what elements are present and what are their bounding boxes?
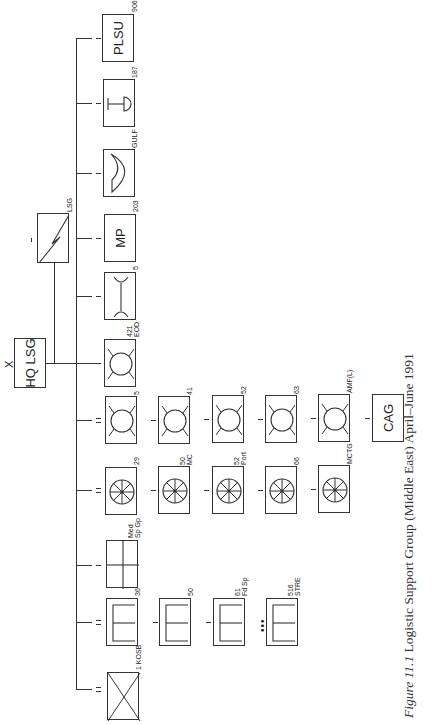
unit-50-box[interactable] — [159, 598, 191, 646]
unit-61-box[interactable] — [213, 598, 245, 646]
tick-36-2 — [96, 624, 101, 625]
tick-41 — [151, 420, 156, 421]
unit-52port-number: 52 — [233, 457, 240, 465]
unit-66-box[interactable] — [265, 466, 297, 514]
unit-50mc-box[interactable] — [158, 466, 190, 514]
branch-medsp — [76, 565, 92, 566]
branch-29 — [76, 490, 92, 491]
lsg-box[interactable] — [37, 213, 69, 263]
unit-52port-sub: Port — [240, 452, 247, 465]
unit-29-number: 29 — [133, 457, 140, 465]
mp-number: 203 — [132, 200, 139, 212]
tick-187 — [96, 103, 101, 104]
tick-mp — [96, 238, 101, 239]
med-sp-gp-sub: Sp Gp — [134, 518, 141, 538]
tick-amf — [311, 418, 316, 419]
plsu-label: PLSU — [111, 21, 126, 55]
branch-187 — [76, 103, 92, 104]
unit-5a-number: 5 — [132, 266, 139, 270]
supply-icon — [160, 599, 192, 647]
gulf-box[interactable] — [103, 149, 135, 197]
figure-label: Figure 11.1 — [401, 656, 416, 718]
eod-box[interactable] — [104, 339, 136, 387]
medical-cross-icon — [107, 541, 139, 589]
tick-kosb-1 — [96, 687, 101, 688]
branch-36 — [76, 622, 92, 623]
wheel-icon — [266, 467, 298, 515]
mctg-box[interactable] — [318, 465, 350, 513]
tick-medsp — [96, 565, 101, 566]
branch-5b — [76, 420, 92, 421]
lsg-label: LSG — [66, 198, 73, 212]
unit-187-number: 187 — [131, 66, 138, 78]
unit-52a-box[interactable] — [212, 395, 244, 443]
plsu-number: 906 — [131, 0, 138, 12]
tick-52port — [204, 490, 209, 491]
branch-mp — [76, 238, 92, 239]
tick-gulf — [96, 173, 101, 174]
wheel-icon — [213, 467, 245, 515]
tick-63 — [258, 419, 263, 420]
cag-box[interactable]: CAG — [372, 394, 404, 442]
tick-50mc — [151, 490, 156, 491]
tick-5b-1 — [96, 418, 101, 419]
hq-to-lsg-line — [54, 263, 55, 363]
unit-516-number: 516 — [287, 584, 294, 596]
branch-kosb — [76, 689, 92, 690]
unit-50-number: 50 — [187, 588, 194, 596]
kosb-box[interactable] — [107, 672, 139, 720]
amf-box[interactable] — [318, 394, 350, 442]
unit-5a-box[interactable] — [104, 272, 136, 320]
unit-50mc-sub: MC — [186, 454, 193, 465]
unit-41-box[interactable] — [158, 396, 190, 444]
unit-29-box[interactable] — [105, 467, 137, 515]
amf-number: AMF(L) — [346, 370, 353, 393]
tick-66 — [258, 490, 263, 491]
tick-52a — [204, 419, 209, 420]
figure-caption-text: Logistic Support Group (Middle East) Apr… — [401, 353, 416, 652]
unit-50mc-number: 50 — [179, 457, 186, 465]
ordnance-icon — [106, 397, 138, 445]
unit-41-number: 41 — [186, 387, 193, 395]
unit-52port-box[interactable] — [212, 466, 244, 514]
tick-29-2 — [96, 492, 101, 493]
unit-63-box[interactable] — [265, 395, 297, 443]
eod-number: 421 — [126, 325, 133, 337]
hq-lsg-box[interactable]: HQ LSG — [14, 338, 46, 388]
mp-box[interactable]: MP — [104, 214, 136, 262]
med-sp-gp-box[interactable] — [106, 540, 138, 588]
tbar-icon — [104, 80, 136, 128]
unit-5b-number: 5 — [133, 391, 140, 395]
hq-to-spine-line — [45, 363, 97, 364]
unit-516-box[interactable] — [266, 598, 298, 646]
ordnance-icon — [319, 395, 351, 443]
unit-187-box[interactable] — [103, 79, 135, 127]
kosb-number: 1 KOSB — [135, 645, 142, 670]
bridge-icon — [105, 273, 137, 321]
hq-lsg-label: HQ LSG — [23, 338, 38, 387]
unit-63-number: 63 — [293, 386, 300, 394]
supply-icon — [267, 599, 299, 647]
tick-29-1 — [96, 488, 101, 489]
eod-sub: EOD — [133, 322, 140, 337]
tick-plsu — [96, 38, 101, 39]
tick-lsg — [31, 238, 32, 242]
gulf-number: GULF — [131, 129, 138, 148]
med-sp-gp-number: Med — [127, 524, 134, 538]
branch-gulf — [76, 173, 92, 174]
tick-50 — [153, 622, 158, 623]
unit-5b-box[interactable] — [105, 396, 137, 444]
tick-cag — [365, 418, 370, 419]
tick-eod — [96, 363, 101, 364]
wheel-icon — [319, 466, 351, 514]
supply-icon — [107, 599, 139, 647]
tick-36-1 — [96, 620, 101, 621]
unit-36-box[interactable] — [106, 598, 138, 646]
tick-kosb-2 — [96, 691, 101, 692]
infantry-cross-icon — [108, 673, 140, 721]
wheel-icon — [106, 468, 138, 516]
unit-61-number: 61 — [234, 588, 241, 596]
plsu-box[interactable]: PLSU — [102, 14, 134, 62]
tick-5b-2 — [96, 422, 101, 423]
supply-icon — [214, 599, 246, 647]
